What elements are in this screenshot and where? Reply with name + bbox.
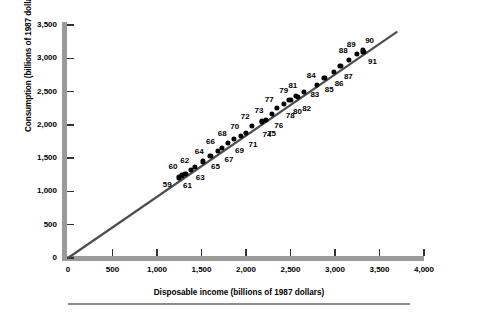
scatter-point-label: 64 — [195, 147, 204, 156]
y-tick-mark — [67, 124, 74, 126]
y-tick-mark — [67, 58, 74, 60]
scatter-point — [275, 106, 280, 111]
scatter-point-label: 87 — [344, 72, 353, 81]
scatter-point — [347, 58, 352, 63]
scatter-point — [301, 90, 306, 95]
scatter-point — [193, 164, 198, 169]
scatter-point-label: 89 — [347, 40, 356, 49]
x-tick-label: 3,000 — [315, 265, 355, 274]
y-tick-mark — [67, 224, 74, 226]
scatter-point-label: 68 — [218, 128, 227, 137]
y-tick-mark — [67, 24, 74, 26]
y-tick-label: 3,000 — [17, 53, 57, 62]
scatter-point — [208, 154, 213, 159]
scatter-point-label: 76 — [274, 120, 283, 129]
scatter-point-label: 66 — [206, 136, 215, 145]
y-tick-label: 2,500 — [17, 87, 57, 96]
scatter-point-label: 60 — [168, 162, 177, 171]
scatter-point — [338, 64, 343, 69]
x-axis-title: Disposable income (billions of 1987 doll… — [68, 288, 410, 297]
scatter-point-label: 86 — [335, 78, 344, 87]
scatter-point-label: 73 — [255, 105, 264, 114]
y-tick-label: 3,500 — [17, 20, 57, 29]
scatter-point — [315, 82, 320, 87]
y-tick-mark — [67, 257, 74, 259]
scatter-point-label: 70 — [230, 122, 239, 131]
scatter-point — [263, 118, 268, 123]
x-tick-label: 0 — [48, 265, 88, 274]
y-tick-mark — [67, 91, 74, 93]
scatter-point — [238, 134, 243, 139]
y-tick-mark — [67, 191, 74, 193]
x-tick-label: 500 — [93, 265, 133, 274]
trend-line — [68, 32, 397, 258]
scatter-point — [282, 101, 287, 106]
scatter-point-label: 82 — [302, 103, 311, 112]
scatter-point — [226, 140, 231, 145]
scatter-point — [183, 172, 188, 177]
y-tick-label: 2,000 — [17, 120, 57, 129]
x-tick-mark — [156, 249, 158, 256]
scatter-point — [322, 76, 327, 81]
footer-divider — [68, 303, 410, 305]
scatter-point-label: 67 — [225, 155, 234, 164]
scatter-point-label: 90 — [365, 36, 374, 45]
scatter-point-label: 63 — [196, 172, 205, 181]
scatter-point — [231, 136, 236, 141]
x-tick-label: 4,000 — [404, 265, 444, 274]
x-axis-spine — [62, 256, 424, 261]
chart-figure: Consumption (billions of 1987 dollars) 0… — [0, 0, 496, 315]
scatter-point-label: 81 — [288, 81, 297, 90]
scatter-point-label: 59 — [163, 180, 172, 189]
scatter-point — [243, 130, 248, 135]
scatter-point-label: 85 — [325, 85, 334, 94]
x-tick-mark — [201, 249, 203, 256]
y-tick-label: 1,000 — [17, 186, 57, 195]
x-tick-label: 1,000 — [137, 265, 177, 274]
scatter-point-label: 62 — [180, 156, 189, 165]
y-tick-label: 0 — [17, 253, 57, 262]
scatter-point-label: 69 — [235, 145, 244, 154]
x-tick-label: 2,500 — [271, 265, 311, 274]
scatter-point — [269, 111, 274, 116]
x-tick-mark — [290, 249, 292, 256]
y-tick-label: 1,500 — [17, 153, 57, 162]
x-tick-mark — [245, 249, 247, 256]
scatter-point — [355, 52, 360, 57]
scatter-point — [201, 159, 206, 164]
scatter-point-label: 80 — [293, 106, 302, 115]
x-tick-label: 1,500 — [182, 265, 222, 274]
scatter-point — [219, 146, 224, 151]
y-tick-label: 500 — [17, 220, 57, 229]
scatter-point-label: 72 — [241, 111, 250, 120]
scatter-point-label: 84 — [307, 70, 316, 79]
scatter-point-label: 91 — [368, 56, 377, 65]
scatter-point-label: 71 — [249, 139, 258, 148]
scatter-point-label: 79 — [279, 85, 288, 94]
x-tick-label: 2,000 — [226, 265, 266, 274]
x-tick-mark — [334, 249, 336, 256]
scatter-point — [332, 69, 337, 74]
scatter-point-label: 75 — [267, 129, 276, 138]
scatter-point-label: 83 — [310, 90, 319, 99]
scatter-point-label: 65 — [211, 162, 220, 171]
x-tick-label: 3,500 — [360, 265, 400, 274]
scatter-point-label: 61 — [183, 181, 192, 190]
scatter-point — [361, 49, 366, 54]
y-tick-mark — [67, 157, 74, 159]
x-tick-mark — [423, 249, 425, 256]
x-tick-mark — [379, 249, 381, 256]
scatter-point — [295, 94, 300, 99]
scatter-point — [288, 97, 293, 102]
scatter-point — [250, 123, 255, 128]
scatter-point-label: 77 — [265, 95, 274, 104]
x-tick-mark — [112, 249, 114, 256]
